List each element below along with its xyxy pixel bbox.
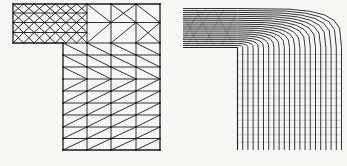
scanned-figure-page	[0, 0, 347, 166]
mesh-and-streamlines-svg	[0, 0, 347, 166]
